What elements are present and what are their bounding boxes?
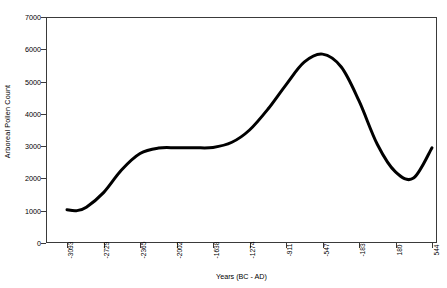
x-axis-tick-label: -2729 xyxy=(99,248,109,274)
x-axis-tick-label: -1638 xyxy=(208,248,218,274)
x-axis-tick-label: -1274 xyxy=(245,248,255,274)
x-axis-tick-label-text: 180 xyxy=(396,244,403,255)
x-axis-tick-label-text: -2002 xyxy=(177,242,184,259)
y-axis-tick-mark xyxy=(41,243,46,244)
y-axis-tick-label: 4000 xyxy=(25,109,41,118)
x-axis-tick-label: -3093 xyxy=(62,248,72,274)
y-axis-tick-labels: 01000200030004000500060007000 xyxy=(16,0,44,288)
x-axis-tick-label: 544 xyxy=(427,248,437,274)
x-axis-tick-label-text: -183 xyxy=(359,243,366,256)
x-axis-tick-label: -2002 xyxy=(172,248,182,274)
y-axis-tick-label: 5000 xyxy=(25,77,41,86)
x-axis-tick-label-text: -911 xyxy=(286,244,293,257)
x-axis-tick-label: -2365 xyxy=(135,248,145,274)
pollen-count-chart: Arboreal Pollen Count 010002000300040005… xyxy=(0,0,447,288)
y-axis-tick-label: 6000 xyxy=(25,45,41,54)
pollen-count-line-plot xyxy=(46,17,437,243)
x-axis-tick-label: -183 xyxy=(354,248,364,274)
x-axis-title-label: Years (BC - AD) xyxy=(216,272,267,281)
y-axis-tick-label: 3000 xyxy=(25,142,41,151)
x-axis-tick-label-text: -1274 xyxy=(250,242,257,259)
x-axis-tick-label-text: -1638 xyxy=(213,242,220,259)
x-axis-tick-label: 180 xyxy=(391,248,401,274)
y-axis-tick-label: 1000 xyxy=(25,206,41,215)
x-axis-tick-label-text: -547 xyxy=(323,243,330,256)
x-axis-tick-label: -547 xyxy=(318,248,328,274)
y-axis-tick-label: 2000 xyxy=(25,174,41,183)
x-axis-tick-label: -911 xyxy=(281,248,291,274)
x-axis-tick-label-text: -2729 xyxy=(104,242,111,259)
x-axis-tick-label-text: -3093 xyxy=(67,242,74,259)
y-axis-title-label: Arboreal Pollen Count xyxy=(4,85,13,158)
x-axis-tick-label-text: 544 xyxy=(432,244,439,255)
x-axis-tick-label-text: -2365 xyxy=(140,242,147,259)
series-line-arboreal-pollen-count xyxy=(67,54,432,211)
x-axis-title: Years (BC - AD) xyxy=(46,272,437,281)
y-axis-tick-label: 7000 xyxy=(25,13,41,22)
y-axis-title: Arboreal Pollen Count xyxy=(0,0,16,243)
